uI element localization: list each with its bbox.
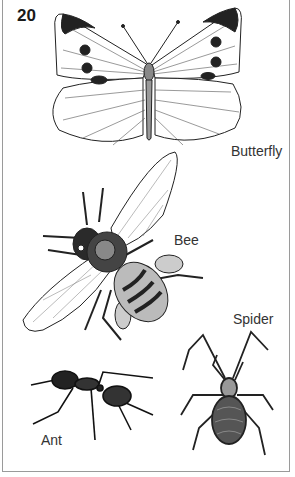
spider-label: Spider xyxy=(233,311,273,327)
insect-illustrations xyxy=(3,0,291,472)
illustration-page: 20 xyxy=(2,0,290,472)
ant-illustration xyxy=(31,371,153,440)
bee-label: Bee xyxy=(174,232,199,248)
spider-illustration xyxy=(181,332,273,455)
butterfly-label: Butterfly xyxy=(231,143,282,159)
ant-label: Ant xyxy=(41,432,62,448)
butterfly-illustration xyxy=(53,8,242,145)
